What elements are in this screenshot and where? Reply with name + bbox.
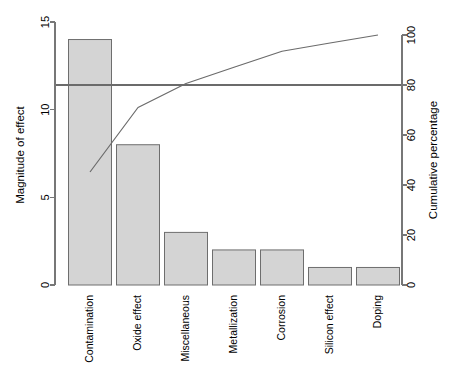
y-axis-left-tick-label: 15	[39, 16, 51, 28]
y-axis-right-tick-label: 60	[405, 129, 417, 141]
bar-0	[69, 40, 112, 285]
bar-1	[117, 145, 160, 285]
y-axis-left-tick-label: 10	[39, 104, 51, 116]
bar-5	[309, 267, 352, 285]
x-axis-label-4: Corrosion	[275, 295, 287, 341]
x-axis-label-2: Miscellaneous	[179, 295, 191, 362]
x-axis-label-0: Contamination	[83, 295, 95, 363]
bar-6	[357, 267, 400, 285]
y-axis-right-tick-label: 20	[405, 229, 417, 241]
x-axis-label-6: Doping	[371, 295, 383, 328]
x-axis-label-1: Oxide effect	[131, 295, 143, 351]
chart-canvas: 051015 020406080100 ContaminationOxide e…	[0, 0, 455, 377]
bar-4	[261, 250, 304, 285]
y-axis-left: 051015	[39, 16, 55, 288]
y-axis-right-tick-label: 100	[405, 26, 417, 44]
x-axis-label-5: Silicon effect	[323, 295, 335, 354]
bar-3	[213, 250, 256, 285]
y-axis-left-title: Magnitude of effect	[14, 105, 26, 203]
y-axis-left-tick-label: 0	[39, 282, 51, 288]
y-axis-right-title: Cumulative percentage	[427, 101, 439, 219]
y-axis-left-tick-label: 5	[39, 194, 51, 200]
y-axis-right-tick-label: 40	[405, 179, 417, 191]
bars-group	[69, 40, 400, 285]
y-axis-right-tick-label: 0	[405, 282, 417, 288]
y-axis-right-tick-label: 80	[405, 79, 417, 91]
bar-2	[165, 232, 208, 285]
x-axis-label-3: Metallization	[227, 295, 239, 354]
x-axis-category-labels: ContaminationOxide effectMiscellaneousMe…	[83, 295, 383, 363]
pareto-chart: 051015 020406080100 ContaminationOxide e…	[0, 0, 455, 377]
y-axis-right: 020406080100	[402, 26, 417, 288]
